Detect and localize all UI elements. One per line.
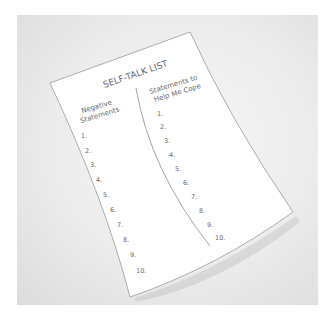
right-item-1: 1.	[157, 110, 163, 118]
left-item-8: 8.	[123, 236, 129, 244]
left-item-6: 6.	[110, 206, 116, 214]
right-item-10: 10.	[215, 234, 225, 242]
left-item-7: 7.	[117, 221, 123, 229]
right-item-6: 6.	[183, 179, 189, 187]
paper-illustration: SELF-TALK LIST Negative Statements State…	[0, 0, 333, 322]
right-item-2: 2.	[160, 123, 166, 131]
right-item-4: 4.	[169, 151, 175, 159]
right-item-3: 3.	[164, 137, 170, 145]
left-item-10: 10.	[136, 267, 146, 275]
left-item-1: 1.	[81, 132, 87, 140]
left-item-9: 9.	[130, 251, 136, 259]
right-item-9: 9.	[207, 221, 213, 229]
right-item-5: 5.	[175, 165, 181, 173]
left-item-5: 5.	[103, 191, 109, 199]
right-item-7: 7.	[191, 193, 197, 201]
right-item-8: 8.	[199, 207, 205, 215]
left-item-4: 4.	[96, 176, 102, 184]
left-item-2: 2.	[85, 147, 91, 155]
paper-sheet	[50, 32, 293, 297]
left-item-3: 3.	[90, 161, 96, 169]
